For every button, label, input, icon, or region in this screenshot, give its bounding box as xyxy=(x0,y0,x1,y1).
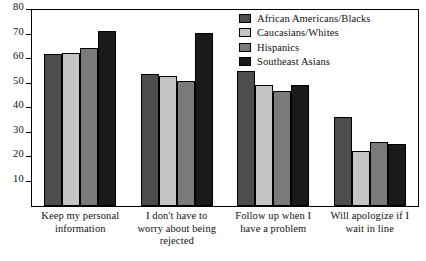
legend: African Americans/BlacksCaucasians/White… xyxy=(239,11,417,69)
legend-label: African Americans/Blacks xyxy=(257,13,371,24)
y-axis-tick-label: 50 xyxy=(13,76,24,87)
x-axis-labels: Keep my personalinformationI don't have … xyxy=(32,210,418,261)
bar-group xyxy=(129,10,226,206)
bar xyxy=(44,54,62,206)
bar xyxy=(237,71,255,206)
legend-item: Hispanics xyxy=(239,40,417,55)
bar xyxy=(273,91,291,206)
y-axis-tick-mark xyxy=(26,34,31,35)
legend-label: Hispanics xyxy=(257,42,299,53)
y-axis-tick-mark xyxy=(26,107,31,108)
y-axis-tick-mark xyxy=(26,132,31,133)
x-axis-label-line: rejected xyxy=(115,235,240,248)
y-axis-tick-mark xyxy=(26,9,31,10)
bar-group xyxy=(32,10,129,206)
legend-item: African Americans/Blacks xyxy=(239,11,417,26)
legend-swatch-icon xyxy=(239,14,251,23)
bar xyxy=(195,33,213,206)
bar xyxy=(388,144,406,206)
bar xyxy=(352,151,370,206)
bar xyxy=(334,117,352,206)
bar xyxy=(141,74,159,206)
y-axis-tick-mark xyxy=(26,83,31,84)
y-axis-tick-label: 80 xyxy=(13,2,24,13)
legend-item: Southeast Asians xyxy=(239,55,417,70)
bar xyxy=(80,48,98,206)
legend-label: Southeast Asians xyxy=(257,56,330,67)
bar-chart: 1020304050607080 Keep my personalinforma… xyxy=(0,0,426,261)
y-axis-tick-mark xyxy=(26,58,31,59)
bar xyxy=(159,76,177,206)
x-axis-label: Will apologize if Iwait in line xyxy=(308,210,426,235)
bar xyxy=(291,85,309,206)
bar xyxy=(255,85,273,206)
y-axis-tick-label: 10 xyxy=(13,174,24,185)
x-axis-label-line: wait in line xyxy=(308,223,426,236)
y-axis-tick-label: 60 xyxy=(13,51,24,62)
y-axis-tick-label: 20 xyxy=(13,149,24,160)
bar xyxy=(370,142,388,206)
y-axis-tick-mark xyxy=(26,156,31,157)
legend-swatch-icon xyxy=(239,28,251,37)
legend-item: Caucasians/Whites xyxy=(239,26,417,41)
y-axis-tick-mark xyxy=(26,181,31,182)
bar xyxy=(177,81,195,206)
x-axis-label-line: Will apologize if I xyxy=(308,210,426,223)
y-axis-tick-label: 40 xyxy=(13,100,24,111)
y-axis-tick-label: 30 xyxy=(13,125,24,136)
legend-label: Caucasians/Whites xyxy=(257,27,339,38)
legend-swatch-icon xyxy=(239,43,251,52)
bar xyxy=(62,53,80,206)
legend-swatch-icon xyxy=(239,57,251,66)
y-axis-tick-label: 70 xyxy=(13,27,24,38)
bar xyxy=(98,31,116,206)
